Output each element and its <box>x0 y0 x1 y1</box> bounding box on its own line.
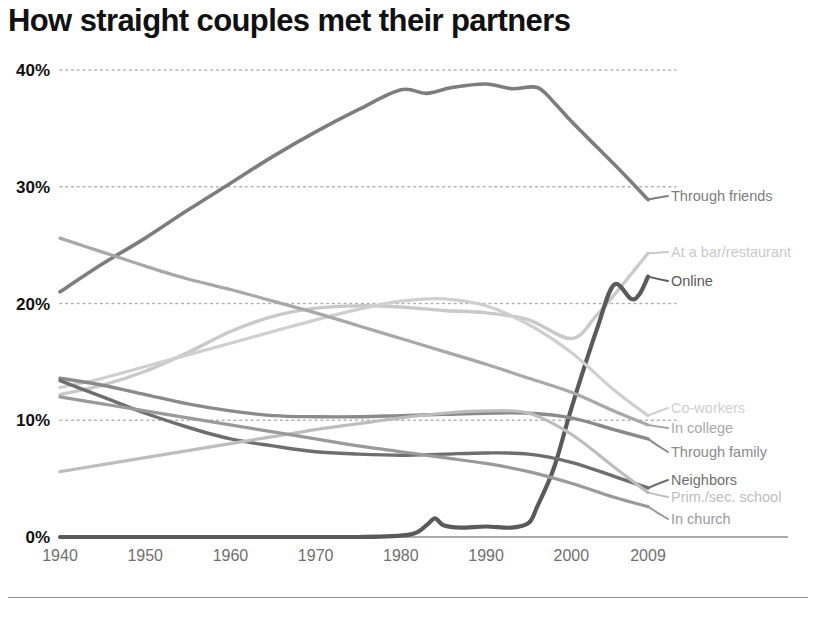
series-line-online <box>60 277 648 538</box>
series-label: Co-workers <box>671 400 745 416</box>
leader-line <box>648 507 668 519</box>
leader-line <box>648 480 668 488</box>
x-tick-label: 1980 <box>383 547 419 564</box>
x-tick-label: 1960 <box>213 547 249 564</box>
leader-line <box>648 252 668 253</box>
series-label: Through family <box>671 444 768 460</box>
series-label: In church <box>671 511 731 527</box>
series-label: At a bar/restaurant <box>671 244 791 260</box>
series-line-co-workers <box>60 299 648 416</box>
x-axis-tick-labels: 19401950196019701980199020002009 <box>42 547 666 564</box>
leader-line <box>648 408 668 416</box>
chart-figure: How straight couples met their partners … <box>0 0 816 627</box>
data-series-group <box>60 84 648 537</box>
series-label: In college <box>671 420 733 436</box>
y-tick-label: 10% <box>16 411 50 430</box>
y-tick-label: 40% <box>16 61 50 80</box>
leader-line <box>648 493 668 497</box>
footer-divider <box>8 597 808 598</box>
leader-line <box>648 196 668 200</box>
y-tick-label: 30% <box>16 178 50 197</box>
series-line-through-friends <box>60 84 648 292</box>
x-tick-label: 1940 <box>42 547 78 564</box>
series-label: Online <box>671 273 713 289</box>
x-tick-label: 1990 <box>468 547 504 564</box>
series-label: Prim./sec. school <box>671 489 781 505</box>
line-chart-plot: 0%10%20%30%40% 1940195019601970198019902… <box>0 0 816 595</box>
leader-line <box>648 425 668 428</box>
series-labels: Through friendsAt a bar/restaurantOnline… <box>671 188 791 527</box>
y-tick-label: 20% <box>16 295 50 314</box>
x-tick-label: 1950 <box>127 547 163 564</box>
y-tick-label: 0% <box>25 528 50 547</box>
x-tick-label: 1970 <box>298 547 334 564</box>
series-label: Neighbors <box>671 472 737 488</box>
y-axis-tick-labels: 0%10%20%30%40% <box>16 61 50 547</box>
series-label: Through friends <box>671 188 773 204</box>
leader-line <box>648 439 668 452</box>
leader-line <box>648 277 668 281</box>
x-tick-label: 2000 <box>554 547 590 564</box>
x-tick-label: 2009 <box>630 547 666 564</box>
gridlines <box>60 70 788 537</box>
label-leader-lines <box>648 196 668 519</box>
